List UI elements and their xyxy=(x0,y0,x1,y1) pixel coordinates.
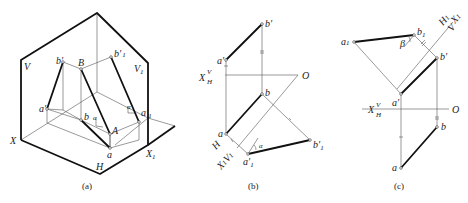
label-O: O xyxy=(302,70,309,81)
label-H-axis: H xyxy=(375,111,382,119)
label-b-prime: b′ xyxy=(265,18,273,29)
panel-a: V V1 X X1 H b′ B b′1 a′ b A a a′1 α α (a… xyxy=(9,13,175,191)
label-H-axis: H xyxy=(206,78,213,86)
label-b-prime: b′ xyxy=(440,51,448,62)
label-X: X xyxy=(367,104,375,115)
label-a1-prime: a′1 xyxy=(243,156,254,169)
caption-c: (c) xyxy=(394,181,404,191)
label-a1-prime: a′1 xyxy=(141,107,152,120)
panel-a-construction-lines xyxy=(21,13,175,148)
projection-figure: V V1 X X1 H b′ B b′1 a′ b A a a′1 α α (a… xyxy=(0,0,468,203)
label-alpha: α xyxy=(259,142,263,150)
label-a: a xyxy=(218,128,223,139)
label-B: B xyxy=(78,57,84,68)
label-a-prime: a′ xyxy=(217,55,225,66)
label-H: H xyxy=(95,161,104,172)
label-a-prime: a′ xyxy=(392,97,400,108)
label-V1: V1 xyxy=(134,63,144,76)
label-V: V xyxy=(24,61,32,72)
label-b: b xyxy=(84,111,89,122)
caption-a: (a) xyxy=(82,181,92,191)
label-H1: H xyxy=(209,138,223,152)
label-b1: b1 xyxy=(417,26,426,39)
label-alpha-2: α xyxy=(127,103,131,111)
label-a-prime: a′ xyxy=(39,103,47,114)
label-a1: a1 xyxy=(341,36,350,47)
label-X1V1: X1V1 xyxy=(214,150,236,172)
label-A: A xyxy=(111,125,119,136)
label-X: X xyxy=(9,135,17,146)
label-b: b xyxy=(441,121,446,132)
label-a: a xyxy=(392,162,397,173)
label-alpha-1: α xyxy=(93,114,97,122)
panel-b: b′ a′ X V H O b a H X1V1 a′1 b′1 α (b) xyxy=(198,18,324,191)
label-X1: X1 xyxy=(145,148,156,161)
label-X: X xyxy=(198,72,206,83)
label-b-prime: b′ xyxy=(56,55,64,66)
label-beta: β xyxy=(399,38,405,49)
plane-frame xyxy=(21,13,148,174)
panel-c: a1 b1 β H1 X1 V b′ a′ X V H O b a (c) xyxy=(341,11,463,191)
label-a: a xyxy=(107,149,112,160)
label-b1-prime: b′1 xyxy=(114,48,126,59)
panel-a-line-segments xyxy=(47,57,139,148)
caption-b: (b) xyxy=(248,181,259,191)
label-b1-prime: b′1 xyxy=(313,139,324,152)
label-O: O xyxy=(452,104,459,115)
label-V-axis: V xyxy=(207,68,212,76)
label-b: b xyxy=(265,87,270,98)
label-V-axis: V xyxy=(376,101,381,109)
